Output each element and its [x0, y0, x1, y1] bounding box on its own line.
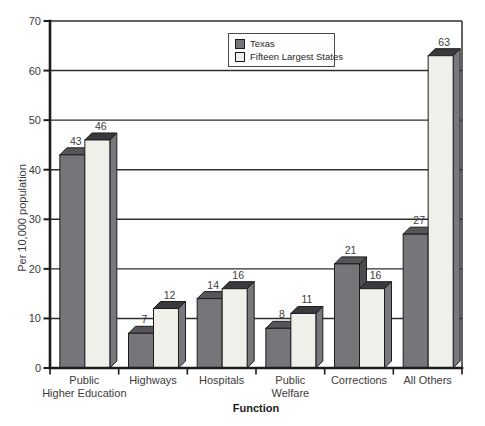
x-category-label: Public [69, 374, 99, 386]
bar-front-0-3 [266, 328, 291, 368]
y-tick-label: 20 [29, 263, 41, 275]
bar-side-1-1 [179, 302, 186, 368]
y-tick-label: 10 [29, 312, 41, 324]
bar-value-label: 7 [142, 313, 148, 325]
x-category-label: All Others [404, 374, 453, 386]
bar-chart-figure: 4346712141681121162763010203040506070Pub… [0, 0, 485, 426]
legend-swatch-texas [235, 39, 245, 49]
bar-value-label: 21 [345, 244, 357, 256]
bar-value-label: 8 [279, 308, 285, 320]
bar-front-0-1 [129, 333, 154, 368]
bar-side-1-0 [110, 133, 117, 368]
legend-item-texas: Texas [235, 37, 332, 50]
y-tick-label: 30 [29, 213, 41, 225]
bar-front-0-0 [60, 155, 85, 368]
x-category-label: Higher Education [42, 387, 126, 399]
bar-side-1-3 [316, 306, 323, 368]
bar-side-1-4 [385, 282, 392, 368]
bar-value-label: 27 [413, 214, 425, 226]
legend-label-texas: Texas [250, 38, 275, 49]
bar-side-1-2 [247, 282, 254, 368]
y-tick-label: 60 [29, 65, 41, 77]
bar-side-1-5 [453, 49, 460, 368]
legend-item-fifteen-largest-states: Fifteen Largest States [235, 50, 332, 63]
x-category-label: Welfare [271, 387, 309, 399]
y-axis-title: Per 10,000 population [16, 164, 28, 272]
y-tick-label: 40 [29, 164, 41, 176]
bar-front-1-2 [222, 289, 247, 368]
bar-value-label: 43 [70, 135, 82, 147]
bar-value-label: 11 [301, 293, 312, 305]
legend-label-fifteen-largest-states: Fifteen Largest States [250, 51, 343, 62]
bar-value-label: 16 [370, 269, 382, 281]
bar-value-label: 12 [164, 289, 176, 301]
bar-value-label: 46 [95, 120, 107, 132]
y-tick-label: 0 [35, 362, 41, 374]
bar-front-1-3 [291, 313, 316, 368]
legend-swatch-fifteen-largest-states [235, 52, 245, 62]
x-category-label: Highways [129, 374, 177, 386]
bar-front-0-4 [335, 264, 360, 368]
x-axis-title: Function [233, 402, 279, 414]
y-tick-label: 50 [29, 114, 41, 126]
bar-front-0-5 [403, 234, 428, 368]
bar-front-0-2 [197, 299, 222, 368]
bar-front-1-4 [360, 289, 385, 368]
bar-front-1-1 [154, 309, 179, 368]
x-category-label: Hospitals [199, 374, 245, 386]
x-category-label: Public [275, 374, 305, 386]
bar-value-label: 14 [207, 279, 219, 291]
bar-front-1-5 [428, 56, 453, 368]
x-category-label: Corrections [331, 374, 388, 386]
bar-value-label: 63 [438, 36, 450, 48]
y-tick-label: 70 [29, 15, 41, 27]
bar-value-label: 16 [232, 269, 244, 281]
legend: Texas Fifteen Largest States [228, 33, 335, 67]
bar-front-1-0 [85, 140, 110, 368]
